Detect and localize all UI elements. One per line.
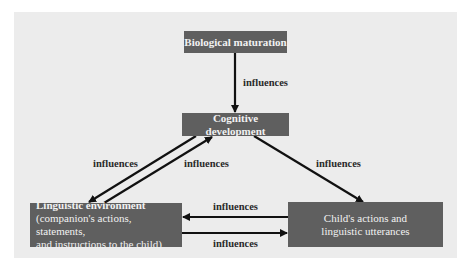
node-label: Cognitive development [182,112,289,138]
node-linguistic-environment: Linguistic environment (companion's acti… [30,203,182,247]
node-label-line2: linguistic utterances [321,225,409,238]
edge-label-linguistic-child: influences [213,238,258,250]
edge-label-cognitive-child: influences [316,158,361,170]
arrow-linguistic-to-cognitive [104,137,212,203]
node-label-line1: Linguistic environment [36,199,182,212]
edge-label-child-linguistic: influences [213,201,258,213]
node-label-line1: Child's actions and [321,212,409,225]
node-label-line2: (companion's actions, statements, [36,212,182,238]
node-biological-maturation: Biological maturation [184,31,287,53]
edge-label-cognitive-linguistic: influences [93,158,138,170]
node-cognitive-development: Cognitive development [182,113,289,136]
node-label-line3: and instructions to the child) [36,238,182,251]
edge-label-linguistic-cognitive: influences [184,158,229,170]
node-label: Biological maturation [184,36,286,49]
node-child-actions: Child's actions and linguistic utterance… [288,202,443,247]
edge-label-biological-cognitive: influences [243,77,288,89]
